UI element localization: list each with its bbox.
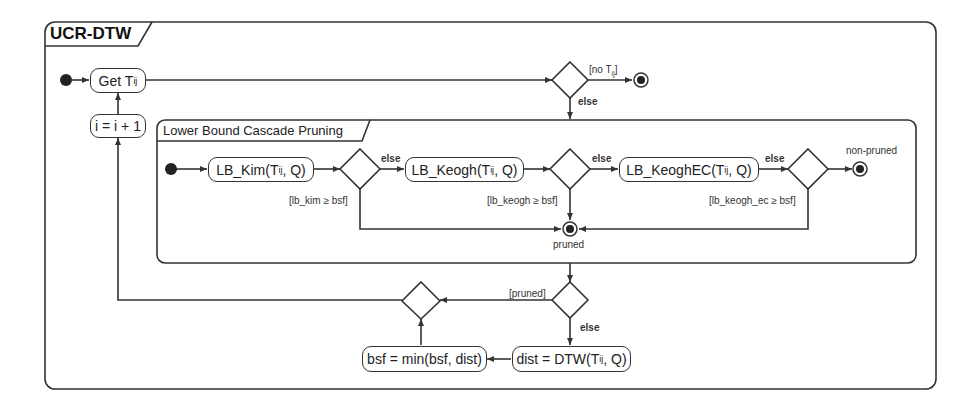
inner-frame-title: Lower Bound Cascade Pruning bbox=[163, 123, 343, 138]
action-lb-keogh-ec-tail: , Q) bbox=[728, 162, 751, 178]
action-dtw-text: dist = DTW(T bbox=[516, 351, 599, 367]
initial-node bbox=[60, 74, 72, 86]
guard-pruned: [pruned] bbox=[509, 288, 546, 299]
action-bsf-text: bsf = min(bsf, dist) bbox=[367, 351, 482, 367]
action-lb-keogh-ec: LB_KeoghEC(Tij, Q) bbox=[619, 157, 759, 182]
action-get-t-text: Get T bbox=[99, 73, 134, 89]
guard-else-keogh: else bbox=[592, 153, 611, 164]
guard-lb-keogh: [lb_keogh ≥ bsf] bbox=[487, 195, 558, 206]
action-increment-text: i = i + 1 bbox=[95, 118, 141, 134]
final-node-non-pruned bbox=[853, 162, 867, 176]
action-lb-keogh-ec-text: LB_KeoghEC(T bbox=[626, 162, 724, 178]
decision-pruned bbox=[552, 282, 588, 318]
guard-lb-keogh-ec: [lb_keogh_ec ≥ bsf] bbox=[709, 195, 796, 206]
label-non-pruned: non-pruned bbox=[846, 145, 897, 156]
guard-no-t-text: [no T bbox=[589, 64, 612, 75]
action-bsf: bsf = min(bsf, dist) bbox=[362, 346, 487, 372]
guard-else-bottom: else bbox=[580, 322, 599, 333]
guard-else-kim: else bbox=[381, 153, 400, 164]
final-node-end bbox=[634, 73, 648, 87]
guard-else-top: else bbox=[578, 96, 597, 107]
action-dtw: dist = DTW(Tij, Q) bbox=[512, 346, 631, 372]
action-lb-keogh-text: LB_Keogh(T bbox=[412, 162, 491, 178]
guard-no-t-tail: ] bbox=[615, 64, 618, 75]
action-lb-keogh-tail: , Q) bbox=[494, 162, 517, 178]
guard-no-t: [no Tij] bbox=[589, 64, 618, 77]
action-get-t-sub: ij bbox=[133, 76, 137, 86]
decision-lb-keogh bbox=[550, 149, 590, 189]
action-get-t: Get Tij bbox=[90, 68, 146, 93]
inner-initial-node bbox=[165, 163, 177, 175]
action-lb-keogh: LB_Keogh(Tij, Q) bbox=[405, 157, 524, 182]
final-node-pruned bbox=[563, 222, 577, 236]
decision-lb-keogh-ec bbox=[788, 149, 828, 189]
decision-lb-kim bbox=[340, 149, 380, 189]
action-lb-kim: LB_Kim(Tij, Q) bbox=[208, 157, 314, 182]
action-increment: i = i + 1 bbox=[90, 114, 146, 138]
action-lb-kim-tail: , Q) bbox=[282, 162, 305, 178]
action-dtw-tail: , Q) bbox=[603, 351, 626, 367]
action-lb-kim-text: LB_Kim(T bbox=[216, 162, 278, 178]
guard-else-keogh-ec: else bbox=[765, 153, 784, 164]
outer-frame-title: UCR-DTW bbox=[50, 24, 131, 44]
label-pruned: pruned bbox=[553, 239, 584, 250]
decision-has-next bbox=[552, 62, 588, 98]
merge-node bbox=[402, 282, 440, 319]
guard-lb-kim: [lb_kim ≥ bsf] bbox=[289, 195, 348, 206]
